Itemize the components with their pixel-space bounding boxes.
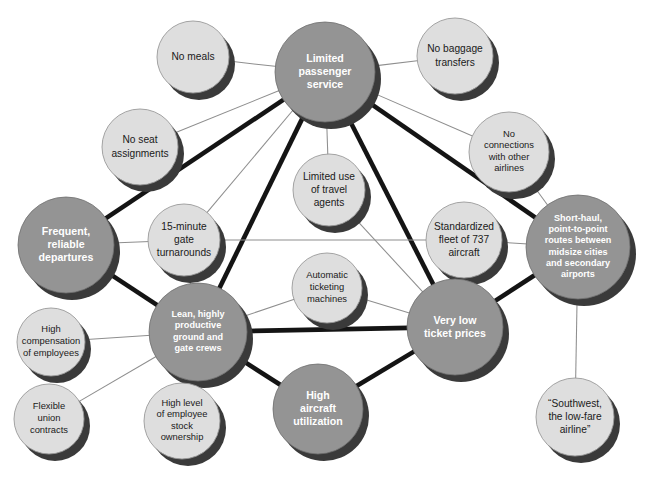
node-label-line: union — [38, 412, 61, 423]
edge-automatic-ticketing-machines-to-lean-productive-crews — [242, 299, 295, 317]
node-label-line: gate — [174, 234, 194, 245]
node-label-line: machines — [307, 293, 347, 304]
edge-limited-passenger-service-to-lean-productive-crews — [219, 115, 304, 290]
node-label-line: transfers — [435, 56, 475, 67]
node-label-line: with other — [488, 151, 530, 162]
node-label-line: of employees — [23, 347, 79, 358]
node-label-automatic-ticketing-machines: Automaticticketingmachines — [306, 270, 348, 304]
node-label-line: Limited — [306, 52, 344, 64]
node-label-line: aircraft — [300, 402, 336, 414]
node-label-line: passenger — [299, 65, 352, 77]
node-label-line: reliable — [47, 238, 84, 250]
node-label-line: contracts — [30, 424, 68, 435]
node-label-line: Lean, highly — [171, 310, 225, 320]
node-label-line: ground and — [173, 332, 223, 342]
node-label-line: airlines — [494, 163, 524, 174]
node-lean-productive-crews[interactable]: Lean, highlyproductiveground andgate cre… — [149, 283, 253, 388]
node-label-line: No — [503, 128, 515, 139]
node-standardized-fleet-737[interactable]: Standardizedfleet of 737aircraft — [426, 202, 508, 285]
node-label-no-meals: No meals — [171, 51, 214, 62]
node-label-line: Flexible — [33, 401, 65, 412]
edge-lean-productive-crews-to-high-compensation-employees — [83, 335, 151, 340]
node-high-aircraft-utilization[interactable]: Highaircraftutilization — [273, 364, 369, 461]
node-high-employee-stock-ownership[interactable]: High levelof employeestockownership — [144, 383, 226, 466]
node-label-line: agents — [314, 197, 345, 208]
node-label-line: utilization — [293, 415, 342, 427]
edge-very-low-ticket-prices-to-short-haul-point-to-point — [494, 274, 537, 302]
node-label-line: ticketing — [310, 281, 344, 292]
node-label-line: Short-haul, — [554, 213, 602, 223]
node-label-line: of travel — [311, 184, 347, 195]
edge-short-haul-point-to-point-to-southwest-low-fare-airline — [576, 297, 577, 380]
node-label-line: No seat — [122, 134, 157, 145]
node-very-low-ticket-prices[interactable]: Very lowticket prices — [407, 279, 509, 382]
node-high-compensation-employees[interactable]: Highcompensationof employees — [17, 308, 91, 383]
node-label-line: Standardized — [434, 220, 494, 231]
node-label-line: routes between — [545, 236, 612, 246]
node-label-line: Automatic — [306, 270, 348, 281]
node-label-line: connections — [484, 140, 534, 151]
node-label-line: airline” — [560, 424, 591, 435]
node-automatic-ticketing-machines[interactable]: Automaticticketingmachines — [292, 253, 368, 330]
node-no-baggage-transfers[interactable]: No baggagetransfers — [417, 18, 499, 101]
edge-lean-productive-crews-to-flexible-union-contracts — [77, 356, 157, 403]
node-label-line: Frequent, — [42, 225, 90, 237]
node-label-line: service — [307, 78, 344, 90]
node-label-line: Limited use — [303, 170, 355, 181]
node-limited-use-travel-agents[interactable]: Limited useof travelagents — [293, 154, 371, 233]
diagram-canvas: No mealsLimitedpassengerserviceNo baggag… — [0, 0, 650, 477]
node-label-line: ticket prices — [424, 326, 486, 338]
node-label-line: airports — [561, 269, 595, 279]
node-no-meals[interactable]: No meals — [157, 21, 235, 100]
node-label-line: compensation — [22, 335, 80, 346]
node-no-seat-assignments[interactable]: No seatassignments — [102, 109, 184, 192]
node-label-line: stock — [171, 420, 193, 431]
node-southwest-low-fare-airline[interactable]: “Southwest,the low-fareairline” — [536, 378, 620, 463]
node-label-line: High — [306, 389, 330, 401]
node-label-line: 15-minute — [161, 220, 207, 231]
node-label-line: assignments — [111, 147, 168, 158]
node-short-haul-point-to-point[interactable]: Short-haul,point-to-pointroutes betweenm… — [526, 195, 636, 306]
node-label-line: ownership — [161, 432, 204, 443]
node-layer: No mealsLimitedpassengerserviceNo baggag… — [14, 18, 636, 466]
node-label-line: departures — [39, 251, 94, 263]
node-flexible-union-contracts[interactable]: Flexibleunioncontracts — [14, 384, 90, 461]
node-label-line: No meals — [171, 51, 214, 62]
node-label-line: productive — [175, 321, 222, 331]
edge-high-aircraft-utilization-to-very-low-ticket-prices — [355, 351, 416, 387]
node-label-line: of employee — [156, 409, 207, 420]
node-label-line: point-to-point — [548, 225, 607, 235]
edge-limited-passenger-service-to-no-baggage-transfers — [373, 60, 420, 66]
node-label-line: turnarounds — [157, 247, 211, 258]
node-label-line: Very low — [434, 313, 478, 325]
node-label-line: aircraft — [448, 247, 479, 258]
node-label-line: High — [41, 324, 60, 335]
node-label-line: gate crews — [174, 343, 221, 353]
node-label-line: midsize cities — [548, 247, 607, 257]
activity-system-diagram: No mealsLimitedpassengerserviceNo baggag… — [0, 0, 650, 477]
node-label-line: and secondary — [546, 258, 611, 268]
node-fifteen-minute-gate-turnarounds[interactable]: 15-minutegateturnarounds — [148, 204, 226, 283]
node-no-connections-other-airlines[interactable]: Noconnectionswith otherairlines — [469, 112, 555, 199]
node-label-line: No baggage — [427, 43, 483, 54]
node-label-line: fleet of 737 — [439, 234, 490, 245]
node-label-lean-productive-crews: Lean, highlyproductiveground andgate cre… — [171, 310, 225, 354]
node-label-line: the low-fare — [548, 411, 602, 422]
node-label-line: “Southwest, — [548, 397, 602, 408]
node-frequent-reliable-departures[interactable]: Frequent,reliabledepartures — [18, 197, 120, 300]
node-label-line: High level — [161, 397, 202, 408]
